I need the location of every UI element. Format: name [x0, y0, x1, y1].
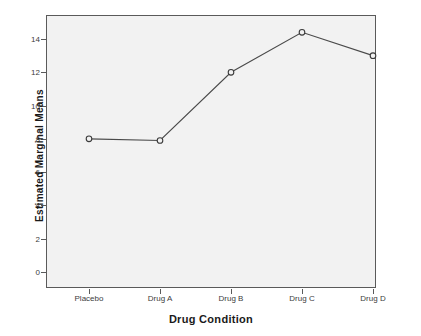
data-point-marker [299, 30, 305, 36]
y-axis-title: Estimated Marginal Means [34, 31, 45, 281]
data-point-marker [370, 53, 376, 59]
series-layer [0, 0, 421, 336]
x-axis-title: Drug Condition [46, 313, 376, 325]
data-point-marker [157, 138, 163, 144]
data-point-marker [86, 136, 92, 142]
series-line [89, 32, 373, 140]
data-point-marker [228, 69, 234, 75]
profile-plot-chart: 02468101214 PlaceboDrug ADrug BDrug CDru… [0, 0, 421, 336]
